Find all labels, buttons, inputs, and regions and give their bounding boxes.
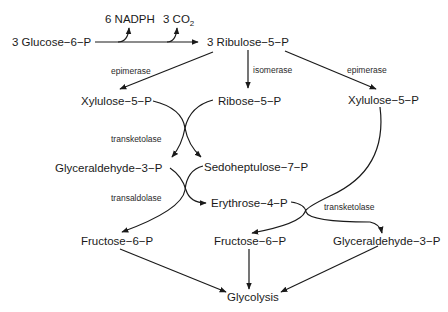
enzyme-labels: epimerase isomerase epimerase transketol…: [111, 65, 387, 212]
node-glycolysis: Glycolysis: [227, 291, 279, 303]
arrow-xylulose-to-sedoheptulose: [153, 101, 201, 157]
enzyme-transketolase-2: transketolase: [324, 202, 375, 212]
node-co2: 3 CO2: [163, 13, 195, 28]
node-glucose-6-p: 3 Glucose−6−P: [12, 36, 92, 48]
node-ribulose-5-p: 3 Ribulose−5−P: [207, 36, 289, 48]
node-fructose-6-p-mid: Fructose−6−P: [214, 235, 287, 247]
enzyme-epimerase-right: epimerase: [347, 65, 387, 75]
enzyme-epimerase-left: epimerase: [111, 66, 151, 76]
node-ribose-5-p: Ribose−5−P: [218, 95, 282, 107]
arrow-nadph-release: [118, 28, 129, 42]
node-glyceraldehyde-3-p-right: Glyceraldehyde−3−P: [333, 235, 441, 247]
enzyme-transketolase-1: transketolase: [111, 134, 162, 144]
enzyme-isomerase: isomerase: [253, 65, 292, 75]
nodes: 3 Glucose−6−P 6 NADPH 3 CO2 3 Ribulose−5…: [12, 13, 441, 303]
arrow-co2-release: [167, 28, 177, 42]
co2-subscript: 2: [190, 19, 195, 28]
arrow-ribose-to-glyceraldehyde: [172, 100, 213, 157]
node-glyceraldehyde-3-p-left: Glyceraldehyde−3−P: [55, 162, 163, 174]
arrow-fructose-left-to-glycolysis: [120, 249, 226, 292]
node-xylulose-5-p-right: Xylulose−5−P: [348, 94, 419, 106]
node-fructose-6-p-left: Fructose−6−P: [81, 235, 154, 247]
node-erythrose-4-p: Erythrose−4−P: [211, 197, 288, 209]
pentose-phosphate-pathway-diagram: 3 Glucose−6−P 6 NADPH 3 CO2 3 Ribulose−5…: [0, 0, 448, 312]
co2-text: 3 CO: [163, 13, 190, 25]
node-nadph: 6 NADPH: [105, 13, 155, 25]
arrow-glyceraldehyde-right-to-glycolysis: [281, 246, 378, 292]
node-xylulose-5-p-left: Xylulose−5−P: [81, 95, 152, 107]
node-sedoheptulose-7-p: Sedoheptulose−7−P: [204, 161, 309, 173]
enzyme-transaldolase: transaldolase: [111, 193, 162, 203]
arrow-glyceraldehyde-to-erythrose: [170, 168, 206, 203]
